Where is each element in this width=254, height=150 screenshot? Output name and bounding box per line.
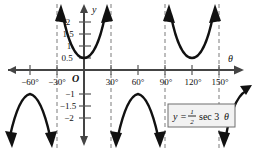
- equation-variable: θ: [224, 111, 229, 122]
- x-tick-label-30: 30°: [106, 77, 119, 87]
- secant-graph-figure: y θ O 2 1.5 1 0.5 −1 −1.5 −2 −60° −30° 3…: [0, 0, 254, 150]
- y-tick-label-minus1p5: −1.5: [60, 101, 77, 111]
- branch-neg-left-arrow-down-1: [5, 131, 17, 148]
- equation-function: sec 3: [199, 111, 219, 122]
- equation-lhs: y: [172, 111, 178, 122]
- equation-equals: =: [180, 111, 187, 122]
- branch-sixty-arrow-down-2: [154, 131, 166, 148]
- x-tick-labels: −60° −30° 30° 60° 90° 120° 150°: [21, 77, 229, 87]
- x-axis-arrow-right: [234, 66, 244, 75]
- graph-canvas: y θ O 2 1.5 1 0.5 −1 −1.5 −2 −60° −30° 3…: [0, 0, 254, 150]
- x-axis: [8, 65, 244, 75]
- y-tick-label-minus1: −1: [65, 89, 75, 99]
- x-tick-label-150: 150°: [211, 77, 229, 87]
- y-axis-arrow-down: [80, 136, 88, 146]
- x-tick-label-90: 90°: [160, 77, 173, 87]
- branch-onetwenty: [171, 16, 213, 58]
- y-tick-label-0p5: 0.5: [61, 53, 73, 63]
- y-tick-label-1: 1: [67, 41, 72, 51]
- branch-neg-left: [10, 94, 50, 136]
- branch-sixty-arrow-down-1: [110, 131, 122, 148]
- y-tick-label-2: 2: [66, 17, 71, 27]
- branch-oneeighty-arrow-down: [218, 131, 230, 148]
- x-tick-label-minus30: −30°: [48, 77, 66, 87]
- y-axis-arrow-up: [80, 4, 88, 13]
- y-tick-label-1p5: 1.5: [62, 29, 74, 39]
- y-tick-label-minus2: −2: [64, 113, 74, 123]
- x-tick-label-60: 60°: [132, 77, 145, 87]
- x-axis-label: θ: [228, 53, 233, 64]
- equation-fraction-denominator: 2: [190, 118, 194, 126]
- equation-fraction-numerator: 1: [190, 108, 194, 116]
- branch-sixty: [118, 94, 158, 136]
- y-axis-label: y: [91, 4, 97, 15]
- y-axis: [79, 4, 91, 146]
- x-tick-label-120: 120°: [184, 77, 202, 87]
- branch-neg-left-arrow-down-2: [45, 131, 57, 148]
- x-tick-label-minus60: −60°: [21, 77, 39, 87]
- equation-callout: y = 1 2 sec 3 θ: [168, 104, 235, 127]
- origin-label: O: [72, 73, 79, 84]
- x-axis-arrow-left: [8, 66, 16, 74]
